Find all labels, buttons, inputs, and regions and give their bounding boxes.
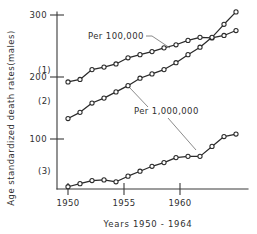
- data-point-marker: [210, 144, 214, 148]
- data-point-marker: [126, 84, 130, 88]
- x-tick-label-1960: 1960: [168, 198, 191, 208]
- data-point-marker: [150, 72, 154, 76]
- data-point-marker: [174, 43, 178, 47]
- data-point-marker: [66, 80, 70, 84]
- data-point-marker: [90, 67, 94, 71]
- data-point-marker: [150, 164, 154, 168]
- data-point-marker: [114, 90, 118, 94]
- x-axis-title: Years 1950 - 1964: [103, 219, 193, 229]
- annotation-per-1000000-leader-down: [168, 118, 196, 150]
- annotation-per-100000: Per 100,000: [88, 31, 144, 41]
- chart-figure: Age standardized death rates(males) 300 …: [0, 0, 257, 234]
- annotation-per-100000-leader: [146, 36, 170, 48]
- series-2-markers: [66, 10, 238, 121]
- y-axis-title: Age standardized death rates(males): [6, 30, 16, 206]
- data-point-marker: [138, 76, 142, 80]
- y-tick-label-100: 100: [30, 134, 47, 144]
- series-3-group: [66, 132, 238, 189]
- series-2-label: (2): [38, 96, 51, 106]
- series-2-group: [66, 10, 238, 121]
- data-point-marker: [222, 22, 226, 26]
- annotation-per-1000000-leader-up: [130, 88, 148, 107]
- data-point-marker: [162, 46, 166, 50]
- data-point-marker: [162, 67, 166, 71]
- data-point-marker: [78, 182, 82, 186]
- data-point-marker: [114, 180, 118, 184]
- series-3-label: (3): [38, 166, 51, 176]
- data-point-marker: [66, 185, 70, 189]
- data-point-marker: [186, 154, 190, 158]
- data-point-marker: [90, 178, 94, 182]
- data-point-marker: [162, 160, 166, 164]
- data-point-marker: [66, 116, 70, 120]
- data-point-marker: [234, 132, 238, 136]
- data-point-marker: [198, 35, 202, 39]
- data-point-marker: [138, 53, 142, 57]
- data-point-marker: [222, 33, 226, 37]
- data-point-marker: [102, 65, 106, 69]
- data-point-marker: [198, 154, 202, 158]
- data-point-marker: [186, 38, 190, 42]
- data-point-marker: [210, 35, 214, 39]
- series-1-label: (1): [38, 65, 51, 75]
- data-point-marker: [234, 28, 238, 32]
- data-point-marker: [138, 169, 142, 173]
- data-point-marker: [186, 53, 190, 57]
- y-tick-label-300: 300: [30, 10, 47, 20]
- data-point-marker: [78, 77, 82, 81]
- x-tick-label-1955: 1955: [112, 198, 135, 208]
- line-chart: Age standardized death rates(males) 300 …: [0, 0, 257, 234]
- data-point-marker: [174, 61, 178, 65]
- data-point-marker: [90, 101, 94, 105]
- x-tick-label-1950: 1950: [56, 198, 79, 208]
- data-point-marker: [150, 49, 154, 53]
- data-point-marker: [102, 96, 106, 100]
- data-point-marker: [114, 62, 118, 66]
- data-point-marker: [126, 174, 130, 178]
- data-point-marker: [174, 156, 178, 160]
- data-point-marker: [102, 178, 106, 182]
- data-point-marker: [78, 110, 82, 114]
- data-point-marker: [222, 134, 226, 138]
- annotation-per-1000000: Per 1,000,000: [134, 106, 199, 116]
- data-point-marker: [198, 45, 202, 49]
- series-3-markers: [66, 132, 238, 189]
- data-point-marker: [126, 56, 130, 60]
- data-point-marker: [234, 10, 238, 14]
